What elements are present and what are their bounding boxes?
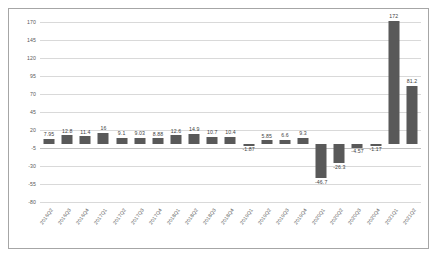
x-axis-tick: 2020Q2: [330, 205, 348, 257]
bar-slot: 14.9: [185, 22, 203, 202]
x-axis-tick-label: 2020Q2: [329, 207, 344, 226]
bar[interactable]: [116, 138, 127, 145]
bar[interactable]: [316, 144, 327, 178]
x-axis-tick: 2021Q1: [385, 205, 403, 257]
x-axis-tick: 2018Q2: [185, 205, 203, 257]
bar[interactable]: [189, 134, 200, 145]
gridline: [40, 202, 421, 203]
bar-slot: 172: [385, 22, 403, 202]
bar-slot: 9.3: [294, 22, 312, 202]
bar[interactable]: [62, 135, 73, 144]
x-axis-tick-label: 2016Q3: [57, 207, 72, 226]
bar-value-label: 11.4: [80, 129, 90, 135]
bar-slot: 10.7: [203, 22, 221, 202]
chart-container: 17014512095704520-5-30-55-80 7.9512.811.…: [8, 8, 429, 249]
bar-value-label: 9.1: [118, 130, 126, 136]
x-axis-tick-label: 2021Q1: [383, 207, 398, 226]
bar-slot: 7.95: [40, 22, 58, 202]
x-axis-tick: 2017Q1: [94, 205, 112, 257]
x-axis-tick-label: 2020Q1: [311, 207, 326, 226]
y-axis-tick-label: -30: [28, 163, 36, 169]
bar-value-label: 6.6: [281, 132, 289, 138]
bar-slot: 6.6: [276, 22, 294, 202]
bar-slot: 9.1: [113, 22, 131, 202]
x-axis-tick: 2018Q4: [221, 205, 239, 257]
y-axis-tick-label: 95: [30, 73, 36, 79]
x-axis-tick: 2017Q2: [113, 205, 131, 257]
bar[interactable]: [298, 138, 309, 145]
bar-slot: 9.03: [131, 22, 149, 202]
bar[interactable]: [279, 140, 290, 145]
x-axis-tick: 2016Q3: [58, 205, 76, 257]
x-axis-tick-label: 2018Q1: [166, 207, 181, 226]
bar-slot: 5.85: [258, 22, 276, 202]
x-axis-tick-label: 2019Q2: [256, 207, 271, 226]
x-axis-tick: 2021Q2: [403, 205, 421, 257]
y-axis-tick-label: -55: [28, 181, 36, 187]
x-axis-tick-label: 2017Q3: [129, 207, 144, 226]
bar[interactable]: [388, 21, 399, 145]
y-axis-tick-label: 20: [30, 127, 36, 133]
bar-slot: 11.4: [76, 22, 94, 202]
y-axis-tick-label: 145: [27, 37, 36, 43]
x-axis-tick-label: 2018Q4: [220, 207, 235, 226]
bar-slot: 81.2: [403, 22, 421, 202]
x-axis-tick-label: 2016Q2: [39, 207, 54, 226]
bar-slot: 16: [94, 22, 112, 202]
bar-slot: 10.4: [221, 22, 239, 202]
bar-value-label: -1.87: [242, 146, 254, 152]
bar[interactable]: [134, 138, 145, 145]
bar[interactable]: [406, 86, 417, 144]
bar-value-label: 14.9: [189, 126, 200, 132]
y-axis-tick-label: -80: [28, 199, 36, 205]
bar-value-label: -26.3: [333, 164, 345, 170]
x-axis-tick: 2017Q3: [131, 205, 149, 257]
bar-slot: -1.17: [367, 22, 385, 202]
x-axis-tick: 2017Q4: [149, 205, 167, 257]
y-axis-tick-label: 170: [27, 19, 36, 25]
x-axis: 2016Q22016Q32016Q42017Q12017Q22017Q32017…: [40, 205, 421, 257]
bar-value-label: 5.85: [262, 133, 273, 139]
bar[interactable]: [171, 135, 182, 144]
x-axis-tick: 2020Q4: [367, 205, 385, 257]
bar[interactable]: [352, 144, 363, 147]
x-axis-tick-label: 2021Q2: [401, 207, 416, 226]
bar-value-label: -4.57: [351, 148, 363, 154]
x-axis-tick-label: 2018Q3: [202, 207, 217, 226]
bar[interactable]: [225, 137, 236, 144]
bar[interactable]: [261, 140, 272, 144]
bar-slot: -1.87: [240, 22, 258, 202]
x-axis-tick-label: 2018Q2: [184, 207, 199, 226]
bar[interactable]: [207, 137, 218, 145]
bar-slot: -46.7: [312, 22, 330, 202]
bar-value-label: 9.3: [299, 130, 307, 136]
bar-value-label: 12.8: [62, 128, 73, 134]
bar[interactable]: [80, 136, 91, 144]
bar[interactable]: [98, 133, 109, 145]
bar[interactable]: [44, 139, 55, 145]
x-axis-tick: 2020Q1: [312, 205, 330, 257]
x-axis-tick: 2016Q2: [40, 205, 58, 257]
bar[interactable]: [334, 144, 345, 163]
plot-area: 17014512095704520-5-30-55-80 7.9512.811.…: [40, 22, 421, 202]
x-axis-tick: 2019Q4: [294, 205, 312, 257]
bar-value-label: 9.03: [135, 130, 146, 136]
bar-value-label: 16: [100, 125, 106, 131]
bar-slot: 12.8: [58, 22, 76, 202]
bar-value-label: -46.7: [315, 179, 327, 185]
x-axis-tick-label: 2019Q3: [274, 207, 289, 226]
bar-value-label: 10.4: [225, 129, 236, 135]
y-axis-tick-label: 45: [30, 109, 36, 115]
bar-slot: -26.3: [330, 22, 348, 202]
bar-slot: 8.88: [149, 22, 167, 202]
x-axis-tick-label: 2017Q1: [93, 207, 108, 226]
y-axis-tick-label: 120: [27, 55, 36, 61]
bar-slot: 12.6: [167, 22, 185, 202]
x-axis-tick: 2016Q4: [76, 205, 94, 257]
x-axis-tick: 2020Q3: [348, 205, 366, 257]
x-axis-tick: 2019Q1: [240, 205, 258, 257]
bar-value-label: 8.88: [153, 131, 164, 137]
bar[interactable]: [152, 138, 163, 144]
x-axis-tick-label: 2017Q4: [147, 207, 162, 226]
x-axis-tick-label: 2020Q4: [365, 207, 380, 226]
